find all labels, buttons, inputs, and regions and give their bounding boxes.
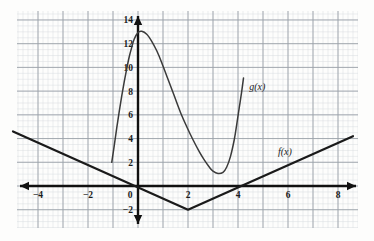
x-tick-6: 6 [286, 190, 291, 200]
y-tick-8: 8 [128, 87, 133, 97]
graph-figure: −4−202468 −22468101214 f(x)g(x) [0, 0, 374, 241]
x-tick-8: 8 [336, 190, 341, 200]
y-tick-4: 4 [128, 134, 133, 144]
y-tick-2: 2 [128, 158, 133, 168]
curve-label-gx: g(x) [249, 81, 266, 93]
x-tick--2: −2 [83, 190, 93, 200]
x-tick-0: 0 [128, 190, 133, 200]
x-tick-4: 4 [236, 190, 241, 200]
coordinate-plane-chart: −4−202468 −22468101214 f(x)g(x) [0, 0, 374, 241]
x-tick-2: 2 [186, 190, 191, 200]
y-tick--2: −2 [123, 205, 133, 215]
y-tick-6: 6 [128, 110, 133, 120]
y-tick-14: 14 [124, 15, 134, 25]
curve-label-fx: f(x) [278, 146, 293, 158]
x-tick--4: −4 [33, 190, 43, 200]
